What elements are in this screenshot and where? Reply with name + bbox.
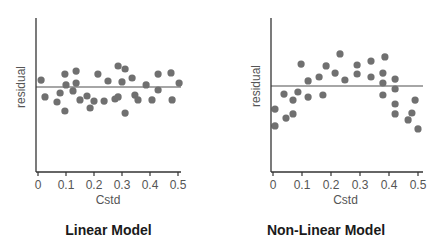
data-point — [83, 92, 90, 99]
x-tick-label: 0.3 — [352, 178, 369, 192]
data-point — [354, 61, 361, 68]
data-point — [122, 110, 129, 117]
data-point — [323, 62, 330, 69]
nonlinear-model-title: Non-Linear Model — [217, 222, 435, 238]
data-point — [129, 74, 136, 81]
data-point — [104, 77, 111, 84]
data-point — [41, 93, 48, 100]
data-point — [367, 73, 374, 80]
data-point — [115, 93, 122, 100]
y-axis-label: residual — [249, 65, 263, 107]
data-point — [115, 62, 122, 69]
data-point — [169, 96, 176, 103]
x-tick-label: 0.3 — [114, 178, 131, 192]
data-point — [61, 107, 68, 114]
data-point — [341, 76, 348, 83]
data-point — [282, 115, 289, 122]
data-point — [155, 86, 162, 93]
data-point — [379, 79, 386, 86]
data-point — [414, 125, 421, 132]
x-tick-label: 0 — [35, 178, 42, 192]
data-point — [73, 68, 80, 75]
data-point — [392, 110, 399, 117]
data-point — [336, 50, 343, 57]
data-point — [298, 61, 305, 68]
data-point — [305, 94, 312, 101]
data-point — [118, 78, 125, 85]
nonlinear-model-chart: 00.10.20.30.40.5Cstdresidual — [217, 0, 435, 220]
data-point — [53, 98, 60, 105]
data-point — [69, 87, 76, 94]
x-tick-label: 0.4 — [381, 178, 398, 192]
x-tick-label: 0 — [270, 178, 277, 192]
data-point — [271, 122, 278, 129]
data-point — [76, 96, 83, 103]
data-point — [379, 91, 386, 98]
data-point — [61, 71, 68, 78]
data-point — [367, 58, 374, 65]
data-point — [94, 71, 101, 78]
data-point — [87, 104, 94, 111]
data-point — [73, 80, 80, 87]
data-point — [381, 53, 388, 60]
data-point — [167, 69, 174, 76]
data-point — [405, 116, 412, 123]
linear-model-panel: 00.10.20.30.40.5Cstdresidual Linear Mode… — [0, 0, 217, 250]
data-point — [38, 77, 45, 84]
data-point — [143, 81, 150, 88]
y-axis-label: residual — [14, 66, 28, 108]
data-point — [289, 110, 296, 117]
data-point — [319, 91, 326, 98]
x-axis-label: Cstd — [333, 193, 358, 207]
x-tick-label: 0.4 — [142, 178, 159, 192]
data-point — [294, 88, 301, 95]
data-point — [408, 109, 415, 116]
data-point — [122, 65, 129, 72]
data-point — [176, 80, 183, 87]
data-point — [354, 70, 361, 77]
x-tick-label: 0.1 — [58, 178, 75, 192]
x-tick-label: 0.5 — [410, 178, 427, 192]
data-point — [57, 89, 64, 96]
data-point — [305, 77, 312, 84]
x-axis-label: Cstd — [96, 193, 121, 207]
data-point — [271, 106, 278, 113]
x-tick-label: 0.2 — [86, 178, 103, 192]
linear-model-title: Linear Model — [0, 222, 217, 238]
data-point — [90, 98, 97, 105]
data-point — [134, 96, 141, 103]
data-point — [155, 71, 162, 78]
data-point — [392, 100, 399, 107]
data-point — [289, 97, 296, 104]
data-point — [316, 73, 323, 80]
data-point — [379, 70, 386, 77]
data-point — [332, 70, 339, 77]
data-point — [280, 91, 287, 98]
x-tick-label: 0.2 — [323, 178, 340, 192]
linear-model-chart: 00.10.20.30.40.5Cstdresidual — [0, 0, 217, 220]
data-point — [392, 85, 399, 92]
data-point — [62, 81, 69, 88]
data-point — [148, 96, 155, 103]
x-tick-label: 0.1 — [294, 178, 311, 192]
data-point — [101, 98, 108, 105]
nonlinear-model-panel: 00.10.20.30.40.5Cstdresidual Non-Linear … — [217, 0, 435, 250]
data-point — [412, 97, 419, 104]
x-tick-label: 0.5 — [170, 178, 187, 192]
data-point — [392, 76, 399, 83]
